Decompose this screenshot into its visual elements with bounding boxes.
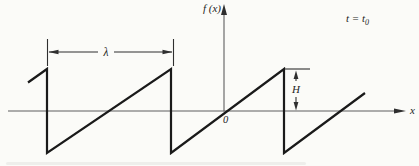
wavelength-label: λ bbox=[103, 46, 109, 58]
scan-artifact bbox=[6, 162, 306, 165]
x-axis-arrowhead-icon bbox=[394, 109, 406, 114]
wavelength-right-arrowhead-icon bbox=[163, 50, 173, 55]
origin-label: 0 bbox=[223, 114, 229, 125]
height-label: H bbox=[291, 83, 301, 95]
function-axis-label: f (x) bbox=[203, 2, 221, 15]
time-annotation-main: t = t bbox=[346, 12, 366, 24]
figure-canvas: λ H f (x) t = t0 0 x bbox=[0, 0, 419, 166]
wavelength-left-arrowhead-icon bbox=[49, 50, 59, 55]
height-down-arrowhead-icon bbox=[294, 102, 299, 111]
sawtooth-wave-figure: λ H f (x) t = t0 0 x bbox=[0, 0, 419, 166]
time-annotation-subscript: 0 bbox=[365, 18, 369, 27]
y-axis-arrowhead-icon bbox=[221, 4, 227, 15]
wavelength-dimension: λ bbox=[48, 39, 174, 66]
x-axis-label: x bbox=[409, 104, 415, 116]
height-dimension: H bbox=[285, 69, 310, 111]
time-annotation: t = t0 bbox=[346, 12, 369, 27]
